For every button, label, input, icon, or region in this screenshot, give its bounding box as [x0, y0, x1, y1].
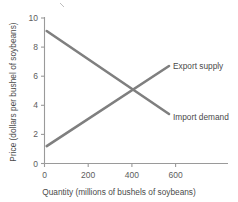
x-tick-label-200: 200: [81, 170, 95, 180]
series-label-export-supply: Export supply: [173, 61, 224, 71]
y-axis-tick-labels: 0 2 4 6 8 10: [29, 13, 39, 169]
y-tick-label-10: 10: [29, 13, 39, 23]
y-tick-label-2: 2: [33, 129, 38, 139]
y-axis-title: Price (dollars per bushel of soybeans): [8, 22, 18, 162]
chart-plot-area: 0 2 4 6 8 10 0 200 400 600 Export supply…: [0, 0, 238, 202]
y-tick-label-4: 4: [33, 100, 38, 110]
x-axis-title: Quantity (millions of bushels of soybean…: [42, 187, 196, 197]
series-label-import-demand: Import demand: [173, 112, 229, 122]
decorative-corner-mark: [60, 3, 64, 7]
chart-figure: 0 2 4 6 8 10 0 200 400 600 Export supply…: [0, 0, 238, 202]
y-tick-label-6: 6: [33, 71, 38, 81]
x-tick-label-600: 600: [169, 170, 183, 180]
x-tick-label-400: 400: [125, 170, 139, 180]
x-axis-tick-labels: 0 200 400 600: [42, 170, 183, 180]
series-line-export-supply: [47, 66, 169, 146]
y-tick-label-0: 0: [33, 159, 38, 169]
y-tick-label-8: 8: [33, 42, 38, 52]
series-line-import-demand: [47, 31, 169, 114]
x-tick-label-0: 0: [42, 170, 47, 180]
